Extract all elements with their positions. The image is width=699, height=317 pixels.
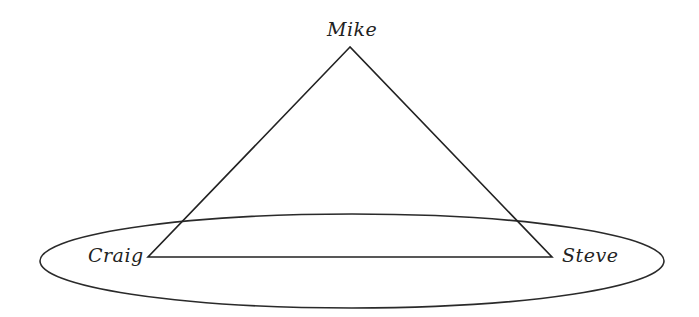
node-label-craig: Craig bbox=[88, 244, 144, 266]
relationship-triangle bbox=[148, 47, 552, 257]
node-label-steve: Steve bbox=[562, 244, 618, 266]
diagram-canvas bbox=[0, 0, 699, 317]
node-label-mike: Mike bbox=[327, 18, 377, 40]
